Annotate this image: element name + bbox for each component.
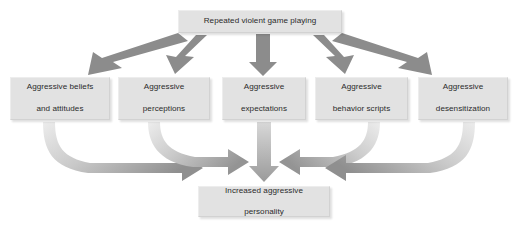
node-label: Aggressive desensitization (430, 82, 496, 114)
arrow-aggressive-desensitization-to-outcome (325, 122, 475, 181)
node-label-line2: desensitization (433, 104, 493, 115)
node-aggressive-beliefs-and-attitudes[interactable]: Aggressive beliefs and attitudes (10, 77, 110, 120)
node-label-line1: Aggressive beliefs (24, 82, 97, 93)
node-label-line1: Aggressive (433, 82, 493, 93)
node-label-line2: perceptions (140, 104, 188, 115)
node-label: Repeated violent game playing (201, 16, 320, 27)
node-label: Increased aggressive personality (219, 186, 309, 218)
flow-diagram: Repeated violent game playing Aggressive… (0, 0, 520, 227)
node-label-line2: behavior scripts (330, 104, 393, 115)
node-label-line2: personality (222, 207, 306, 218)
node-label-line2: expectations (238, 104, 290, 115)
node-label-line1: Aggressive (140, 82, 188, 93)
node-label: Aggressive behavior scripts (327, 82, 396, 114)
node-label: Aggressive perceptions (137, 82, 191, 114)
node-aggressive-desensitization[interactable]: Aggressive desensitization (418, 77, 508, 120)
node-label-line2: and attitudes (24, 104, 97, 115)
node-label-line1: Aggressive (330, 82, 393, 93)
node-aggressive-perceptions[interactable]: Aggressive perceptions (118, 77, 210, 120)
node-label-line1: Aggressive (238, 82, 290, 93)
node-label: Aggressive beliefs and attitudes (21, 82, 100, 114)
node-aggressive-expectations[interactable]: Aggressive expectations (222, 77, 306, 120)
arrow-aggressive-beliefs-and-attitudes-to-outcome (43, 122, 203, 181)
arrow-aggressive-expectations-to-outcome (249, 122, 279, 182)
node-label-line1: Increased aggressive (222, 186, 306, 197)
node-increased-aggressive-personality[interactable]: Increased aggressive personality (198, 186, 330, 217)
node-repeated-violent-game-playing[interactable]: Repeated violent game playing (178, 10, 342, 33)
arrow-source-to-aggressive-expectations (249, 34, 277, 76)
node-aggressive-behavior-scripts[interactable]: Aggressive behavior scripts (315, 77, 408, 120)
node-label: Aggressive expectations (235, 82, 293, 114)
